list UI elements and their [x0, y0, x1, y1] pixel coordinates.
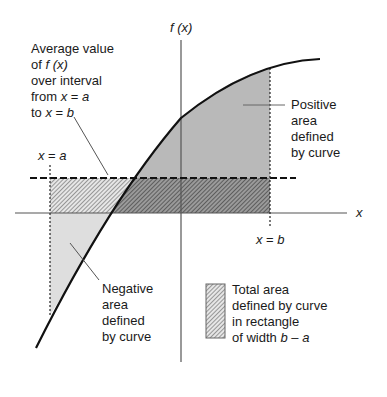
x-axis-label: x	[356, 205, 363, 221]
legend-text: Total area defined by curve in rectangle…	[232, 282, 327, 346]
x-equals-b-label: x = b	[256, 232, 285, 248]
x-equals-a-label: x = a	[38, 148, 67, 164]
average-value-annotation: Average value of f (x) over interval fro…	[31, 41, 114, 121]
y-axis-label: f (x)	[170, 20, 192, 36]
average-rectangle	[50, 178, 270, 213]
legend-swatch	[206, 284, 225, 338]
positive-area-annotation: Positive area defined by curve	[291, 97, 340, 161]
y-axis-label-f: f	[170, 20, 174, 35]
negative-area-annotation: Negative area defined by curve	[102, 281, 153, 345]
average-leader-line	[74, 117, 108, 175]
y-axis-label-x: (x)	[177, 20, 192, 35]
